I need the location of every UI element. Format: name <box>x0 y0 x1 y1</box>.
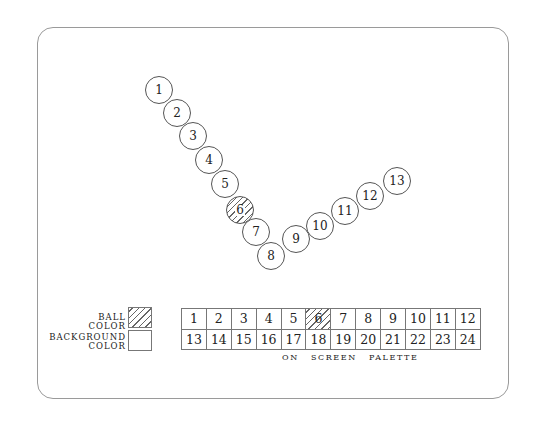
background-color-swatch[interactable] <box>128 330 152 351</box>
palette-cell-9[interactable]: 9 <box>381 309 406 330</box>
ball-label: 7 <box>252 225 260 239</box>
ball-label: 9 <box>292 232 300 246</box>
ball-label: 8 <box>267 249 275 263</box>
palette-cell-22[interactable]: 22 <box>406 330 431 351</box>
palette-cell-10[interactable]: 10 <box>406 309 431 330</box>
ball-11[interactable]: 11 <box>331 197 359 225</box>
ball-color-swatch[interactable] <box>128 307 152 328</box>
background-color-label: BACKGROUND COLOR <box>40 333 126 351</box>
palette-cell-21[interactable]: 21 <box>381 330 406 351</box>
ball-3[interactable]: 3 <box>179 122 207 150</box>
ball-13[interactable]: 13 <box>383 167 411 195</box>
palette-cell-12[interactable]: 12 <box>456 309 481 330</box>
ball-label: 6 <box>235 205 245 216</box>
palette-cell-1[interactable]: 1 <box>182 309 207 330</box>
palette-cell-15[interactable]: 15 <box>232 330 257 351</box>
palette-cell-19[interactable]: 19 <box>331 330 356 351</box>
ball-label: 1 <box>155 83 163 97</box>
ball-1[interactable]: 1 <box>145 76 173 104</box>
palette-cell-4[interactable]: 4 <box>257 309 282 330</box>
palette-cell-23[interactable]: 23 <box>431 330 456 351</box>
ball-label: 13 <box>389 174 404 188</box>
ball-5[interactable]: 5 <box>211 170 239 198</box>
ball-label: 2 <box>173 106 181 120</box>
palette-cell-6[interactable]: 6 <box>306 309 331 330</box>
palette-cell-11[interactable]: 11 <box>431 309 456 330</box>
ball-label: 12 <box>362 189 377 203</box>
palette-cell-5[interactable]: 5 <box>282 309 307 330</box>
ball-label: 5 <box>221 177 229 191</box>
palette-cell-7[interactable]: 7 <box>331 309 356 330</box>
palette-cell-2[interactable]: 2 <box>207 309 232 330</box>
palette-cell-17[interactable]: 17 <box>282 330 307 351</box>
ball-color-label-line2: COLOR <box>46 322 126 331</box>
ball-label: 3 <box>189 129 197 143</box>
palette-cell-14[interactable]: 14 <box>207 330 232 351</box>
palette-cell-8[interactable]: 8 <box>356 309 381 330</box>
palette-caption: ON SCREEN PALETTE <box>282 353 418 362</box>
ball-10[interactable]: 10 <box>306 212 334 240</box>
ball-label: 10 <box>312 219 327 233</box>
palette-cell-3[interactable]: 3 <box>232 309 257 330</box>
ball-color-label: BALL COLOR <box>46 313 126 331</box>
palette-cell-20[interactable]: 20 <box>356 330 381 351</box>
ball-8[interactable]: 8 <box>257 242 285 270</box>
palette-cell-18[interactable]: 18 <box>306 330 331 351</box>
on-screen-palette: 123456789101112131415161718192021222324 <box>181 308 481 350</box>
ball-label: 11 <box>337 204 352 218</box>
ball-12[interactable]: 12 <box>356 182 384 210</box>
ball-label: 4 <box>205 153 213 167</box>
ball-4[interactable]: 4 <box>195 146 223 174</box>
palette-cell-24[interactable]: 24 <box>456 330 481 351</box>
palette-cell-16[interactable]: 16 <box>257 330 282 351</box>
background-color-label-line2: COLOR <box>40 342 126 351</box>
palette-cell-13[interactable]: 13 <box>182 330 207 351</box>
